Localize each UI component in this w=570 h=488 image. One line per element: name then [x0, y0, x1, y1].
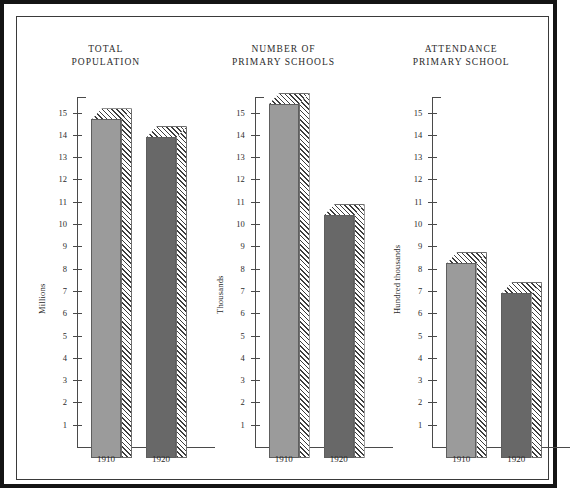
y-tick-label: 2	[223, 398, 245, 407]
y-tick-label: 13	[45, 153, 67, 162]
y-tick-label: 6	[223, 309, 245, 318]
y-axis-title: Thousands	[215, 275, 225, 314]
y-tick-label: 12	[400, 175, 422, 184]
y-tick-label: 2	[400, 398, 422, 407]
y-tick	[251, 135, 260, 136]
y-tick	[428, 246, 437, 247]
y-tick-label: 9	[400, 242, 422, 251]
y-axis-line	[77, 97, 78, 447]
chart-title: ATTENDANCE PRIMARY SCHOOL	[372, 43, 550, 69]
y-tick	[73, 313, 82, 314]
y-tick-label: 5	[223, 332, 245, 341]
y-tick-label: 4	[45, 354, 67, 363]
y-axis-cap-tick	[432, 97, 441, 98]
y-tick	[251, 425, 260, 426]
y-tick	[251, 313, 260, 314]
axes: 123456789101112131415Millions19101920	[17, 97, 195, 447]
chart-panel-3: ATTENDANCE PRIMARY SCHOOL123456789101112…	[372, 17, 550, 481]
y-tick	[428, 269, 437, 270]
y-tick-label: 14	[45, 131, 67, 140]
y-tick	[428, 224, 437, 225]
y-tick	[428, 425, 437, 426]
bar-side-hatch	[121, 108, 132, 458]
y-tick-label: 7	[400, 287, 422, 296]
y-tick	[73, 113, 82, 114]
y-tick-label: 7	[45, 287, 67, 296]
y-tick-label: 5	[400, 332, 422, 341]
y-tick	[428, 113, 437, 114]
y-tick	[251, 358, 260, 359]
chart-panel-group: TOTAL POPULATION123456789101112131415Mil…	[17, 17, 550, 481]
bar-1910	[91, 108, 121, 458]
y-tick-label: 1	[223, 421, 245, 430]
y-tick-label: 12	[45, 175, 67, 184]
y-tick	[73, 202, 82, 203]
y-tick-label: 9	[45, 242, 67, 251]
y-tick	[428, 157, 437, 158]
bar-1920	[501, 282, 531, 458]
y-tick	[73, 269, 82, 270]
y-tick-label: 9	[223, 242, 245, 251]
y-tick	[251, 224, 260, 225]
y-tick-label: 15	[400, 109, 422, 118]
y-tick	[73, 157, 82, 158]
y-tick-label: 10	[400, 220, 422, 229]
bar-front-face	[269, 104, 299, 458]
y-tick-label: 3	[45, 376, 67, 385]
y-tick	[251, 179, 260, 180]
y-tick	[251, 157, 260, 158]
y-tick	[428, 358, 437, 359]
y-tick	[73, 179, 82, 180]
chart-title: TOTAL POPULATION	[17, 43, 195, 69]
y-tick	[251, 246, 260, 247]
y-tick-label: 14	[400, 131, 422, 140]
y-tick-label: 14	[223, 131, 245, 140]
y-tick	[251, 336, 260, 337]
y-tick-label: 13	[223, 153, 245, 162]
y-tick	[428, 380, 437, 381]
bar-1910	[446, 252, 476, 458]
bar-side-hatch	[531, 282, 542, 458]
bar-front-face	[501, 293, 531, 458]
y-tick	[251, 113, 260, 114]
axes: 123456789101112131415Thousands19101920	[195, 97, 373, 447]
y-tick	[73, 425, 82, 426]
y-tick	[73, 336, 82, 337]
bar-side-hatch	[476, 252, 487, 458]
y-tick-label: 15	[223, 109, 245, 118]
x-tick-label: 1920	[319, 454, 359, 464]
x-tick-label: 1910	[264, 454, 304, 464]
y-axis-cap-tick	[77, 97, 86, 98]
y-tick-label: 10	[45, 220, 67, 229]
bar-1910	[269, 93, 299, 458]
bar-side-hatch	[299, 93, 310, 458]
y-tick-label: 10	[223, 220, 245, 229]
y-axis-title: Millions	[37, 284, 47, 314]
y-tick-label: 6	[45, 309, 67, 318]
x-tick-label: 1920	[496, 454, 536, 464]
y-tick	[428, 402, 437, 403]
x-tick-label: 1910	[86, 454, 126, 464]
y-tick	[428, 336, 437, 337]
y-tick	[428, 313, 437, 314]
bar-side-hatch	[354, 204, 365, 458]
bar-1920	[324, 204, 354, 458]
y-tick-label: 12	[223, 175, 245, 184]
chart-panel-1: TOTAL POPULATION123456789101112131415Mil…	[17, 17, 195, 481]
bar-front-face	[91, 119, 121, 458]
y-axis-cap-tick	[255, 97, 264, 98]
y-tick	[73, 246, 82, 247]
y-tick	[73, 224, 82, 225]
y-tick-label: 11	[223, 198, 245, 207]
y-tick	[73, 380, 82, 381]
bar-1920	[146, 126, 176, 458]
y-tick-label: 1	[45, 421, 67, 430]
y-tick-label: 8	[400, 265, 422, 274]
y-tick-label: 15	[45, 109, 67, 118]
y-tick-label: 11	[400, 198, 422, 207]
chart-title: NUMBER OF PRIMARY SCHOOLS	[195, 43, 373, 69]
y-tick-label: 3	[223, 376, 245, 385]
x-tick-label: 1920	[141, 454, 181, 464]
y-axis-line	[432, 97, 433, 447]
